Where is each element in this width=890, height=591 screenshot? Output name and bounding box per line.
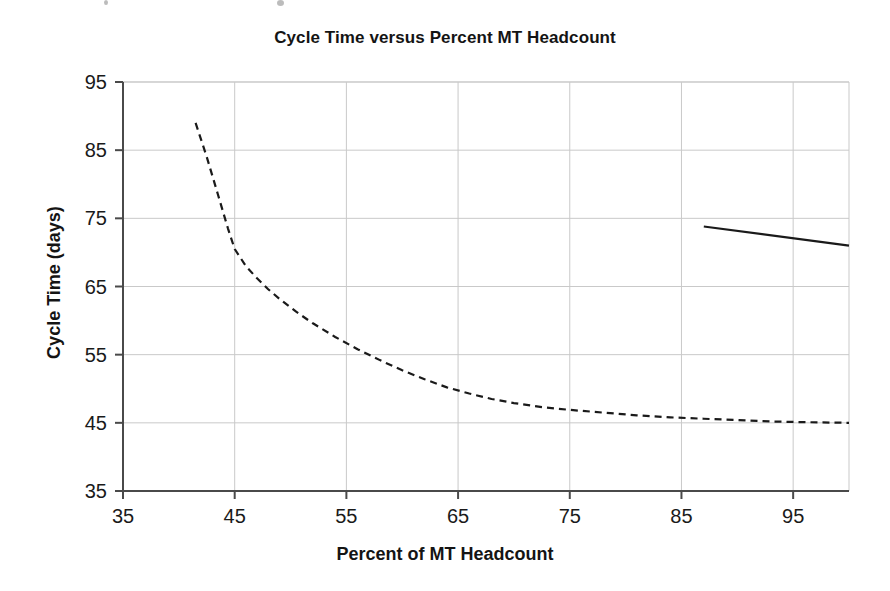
series-line-1	[704, 227, 849, 246]
gridlines	[123, 82, 849, 491]
x-tick-label: 35	[112, 505, 134, 528]
tick-marks	[115, 82, 793, 499]
y-tick-label: 45	[49, 411, 107, 434]
x-tick-label: 85	[670, 505, 692, 528]
x-axis-label: Percent of MT Headcount	[0, 544, 890, 565]
data-series-layer	[196, 123, 849, 423]
x-tick-label: 65	[447, 505, 469, 528]
series-line-0	[196, 123, 849, 423]
x-tick-label: 75	[559, 505, 581, 528]
plot-area	[0, 0, 890, 591]
y-tick-label: 85	[49, 139, 107, 162]
x-tick-label: 95	[782, 505, 804, 528]
y-tick-label: 95	[49, 71, 107, 94]
chart-figure: Cycle Time versus Percent MT Headcount 3…	[0, 0, 890, 591]
x-tick-label: 45	[224, 505, 246, 528]
y-axis-label: Cycle Time (days)	[44, 163, 65, 403]
y-tick-label: 35	[49, 480, 107, 503]
x-tick-label: 55	[335, 505, 357, 528]
